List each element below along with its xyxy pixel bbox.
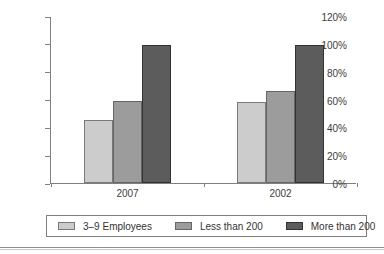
y-axis-tick [45,156,50,157]
x-axis-tick [357,183,358,187]
x-axis-tick [204,183,205,187]
y-axis-label: 20% [327,151,347,162]
legend-item-more-than-200: More than 200 [286,221,376,232]
legend-swatch-icon [58,222,75,230]
x-axis-label-2007: 2007 [116,188,138,199]
legend-item-3-9-employees: 3–9 Employees [58,221,152,232]
legend-label: More than 200 [311,221,376,232]
y-axis-label: 120% [321,12,347,23]
y-axis-label: 0% [333,179,347,190]
legend-label: Less than 200 [200,221,263,232]
y-axis-tick [45,100,50,101]
bar-chart-figure: 0%20%40%60%80%100%120%20072002 3–9 Emplo… [0,0,384,254]
x-axis-label-2002: 2002 [269,188,291,199]
legend-item-less-than-200: Less than 200 [175,221,263,232]
bar-2007-less-than-200 [113,101,142,183]
bottom-rule [0,247,384,250]
y-axis-tick [45,44,50,45]
x-axis-tick [51,183,52,187]
y-axis-tick [45,72,50,73]
y-axis-tick [45,128,50,129]
legend-swatch-icon [286,222,303,230]
bar-2002-more-than-200 [295,45,324,183]
y-axis-label: 80% [327,67,347,78]
bar-2002-less-than-200 [266,91,295,183]
legend-label: 3–9 Employees [83,221,152,232]
y-axis-tick [45,184,50,185]
bar-2002-3-9-employees [237,102,266,183]
y-axis-label: 60% [327,95,347,106]
bar-2007-3-9-employees [84,120,113,183]
y-axis-label: 40% [327,123,347,134]
y-axis-tick [45,17,50,18]
bar-2007-more-than-200 [142,45,171,183]
y-axis-label: 100% [321,39,347,50]
plot-area: 0%20%40%60%80%100%120%20072002 [50,17,356,184]
legend-swatch-icon [175,222,192,230]
legend: 3–9 EmployeesLess than 200More than 200 [46,215,367,237]
